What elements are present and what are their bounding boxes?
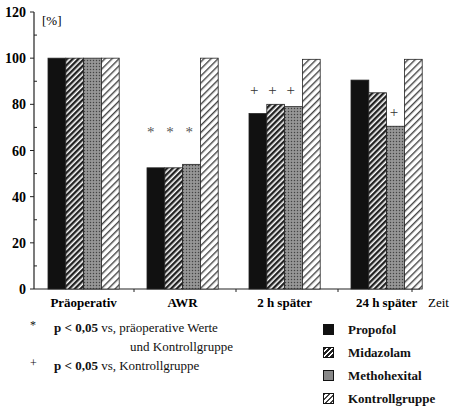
bar <box>84 58 102 289</box>
bars <box>48 58 422 289</box>
y-tick-label: 100 <box>5 51 26 66</box>
legend-swatch-icon <box>323 393 334 404</box>
x-category-label: AWR <box>167 295 198 310</box>
footnote-p-value: p < 0,05 <box>54 358 98 373</box>
bar <box>183 164 201 289</box>
footnote-p-value: p < 0,05 <box>54 320 98 335</box>
legend-item-midazolam: Midazolam <box>323 341 435 364</box>
y-tick-label: 20 <box>12 236 26 251</box>
bar <box>351 80 369 289</box>
bar <box>285 107 303 289</box>
x-category-label: 24 h später <box>356 295 418 310</box>
x-axis-label: Zeit <box>428 295 449 310</box>
y-axis-unit: [%] <box>42 13 62 28</box>
footnotes: * p < 0,05 vs, präoperative Werte und Ko… <box>30 318 233 375</box>
legend-item-methohexital: Methohexital <box>323 364 435 387</box>
footnote-plus: + p < 0,05 vs, Kontrollgruppe <box>30 356 233 375</box>
legend-swatch-icon <box>323 324 334 335</box>
bar <box>147 168 165 289</box>
y-tick-label: 0 <box>19 282 26 297</box>
legend-swatch-icon <box>323 370 334 381</box>
bar <box>101 58 119 289</box>
y-tick-label: 120 <box>5 5 26 20</box>
bar <box>387 126 405 289</box>
bar <box>165 168 183 289</box>
x-category-label: Präoperativ <box>50 295 117 310</box>
bar <box>369 93 387 289</box>
bar <box>249 114 267 289</box>
footnote-text-2: und Kontrollgruppe <box>54 339 233 354</box>
bar <box>267 104 285 289</box>
bar <box>200 58 218 289</box>
footnote-text: vs, Kontrollgruppe <box>101 358 199 373</box>
legend-item-kontrollgruppe: Kontrollgruppe <box>323 387 435 410</box>
legend-swatch-icon <box>323 347 334 358</box>
x-category-label: 2 h später <box>257 295 312 310</box>
significance-asterisks: * * * <box>147 124 197 140</box>
asterisk-symbol: * <box>30 316 36 335</box>
y-tick-label: 60 <box>12 144 26 159</box>
y-tick-label: 80 <box>12 97 26 112</box>
legend-item-propofol: Propofol <box>323 318 435 341</box>
footnote-star: * p < 0,05 vs, präoperative Werte und Ko… <box>30 318 233 356</box>
bar <box>404 59 422 289</box>
significance-plus-24h: + <box>390 104 398 120</box>
y-tick-label: 40 <box>12 190 26 205</box>
bar <box>48 58 66 289</box>
footnote-text: vs, präoperative Werte <box>101 320 218 335</box>
plus-symbol: + <box>30 354 37 373</box>
legend: Propofol Midazolam Methohexital Kontroll… <box>323 318 435 410</box>
bar <box>302 59 320 289</box>
significance-plus-2h: + + + <box>250 82 298 98</box>
bar-chart: 020406080100120[%]PräoperativAWR2 h spät… <box>0 0 457 310</box>
bar <box>66 58 84 289</box>
